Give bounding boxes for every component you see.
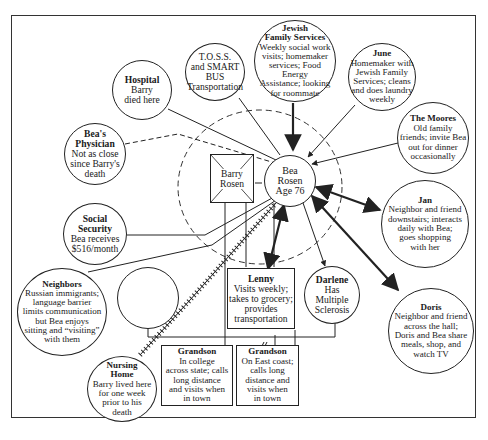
- center-line-3: Age 76: [275, 186, 304, 196]
- toss-desc: Transportation: [187, 82, 243, 92]
- node-jan: Jan Neighbor and friend downstairs; inte…: [381, 180, 469, 268]
- node-darlene: Darlene Has Multiple Sclerosis: [304, 266, 360, 324]
- bea-rosen-center: Bea Rosen Age 76: [264, 155, 316, 207]
- lenny-desc: Visits weekly;: [234, 284, 289, 294]
- grandson1-desc: in town: [183, 394, 210, 403]
- moores-desc: occasionally: [411, 152, 456, 161]
- jan-desc: with her: [410, 243, 440, 252]
- node-neighbors: Neighbors Russian immigrants; language b…: [17, 268, 107, 356]
- lenny-title: Lenny: [248, 274, 274, 284]
- barry-name-1: Barry: [221, 169, 243, 179]
- hospital-desc: died here: [124, 95, 159, 105]
- jfs-desc: for roommate: [270, 89, 319, 98]
- darlene-desc: Sclerosis: [315, 305, 350, 315]
- ss-desc: $516/month: [72, 244, 118, 254]
- node-toss-smart-bus: T.O.S.S. and SMART BUS Transportation: [185, 43, 245, 101]
- lenny-desc: transportation: [234, 314, 287, 324]
- node-june: June Homemaker with Jewish Family Servic…: [348, 43, 416, 111]
- node-grandson-east-coast: Grandson On East coast; calls long dista…: [236, 345, 299, 406]
- june-desc: weekly: [369, 95, 395, 104]
- nursing-desc: death: [112, 408, 132, 417]
- node-doris: Doris Neighbor and friend across the hal…: [388, 288, 474, 374]
- physician-desc: death: [85, 169, 106, 179]
- barry-rosen-box: Barry Rosen: [210, 154, 254, 203]
- lenny-desc: takes to grocery;: [229, 294, 293, 304]
- lenny-desc: provides: [244, 304, 277, 314]
- node-grandson-college: Grandson In college across state; calls …: [161, 345, 233, 406]
- node-the-moores: The Moores Old family friends; invite Be…: [397, 102, 469, 174]
- node-hospital: Hospital Barry died here: [112, 60, 172, 120]
- node-jewish-family-services: Jewish Family Services Weekly social wor…: [254, 20, 336, 102]
- node-unnamed-parent: [117, 267, 179, 329]
- node-social-security: Social Security Bea receives $516/month: [63, 203, 127, 265]
- node-lenny: Lenny Visits weekly; takes to grocery; p…: [227, 268, 295, 329]
- neighbors-desc: with them: [44, 335, 80, 344]
- barry-name-2: Rosen: [220, 179, 244, 189]
- grandson2-desc: in town: [254, 394, 281, 403]
- node-nursing-home: Nursing Home Barry lived here for one we…: [87, 356, 157, 422]
- doris-desc: watch TV: [413, 350, 449, 359]
- node-beas-physician: Bea's Physician Not as close since Barry…: [64, 123, 126, 185]
- ecomap-diagram: Barry Rosen Bea Rosen Age 76 Jewish Fami…: [0, 0, 488, 440]
- jfs-desc: services; Food Energy: [255, 61, 335, 79]
